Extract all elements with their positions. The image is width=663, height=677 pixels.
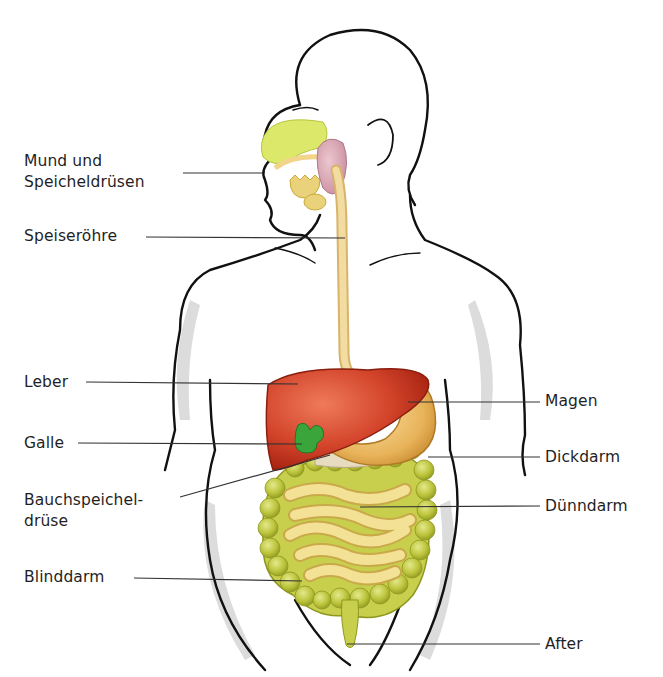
digestive-system-diagram: Mund und Speicheldrüsen Speiseröhre Lebe… bbox=[0, 0, 663, 677]
label-bauchspeicheldruese-line1: Bauchspeichel- bbox=[24, 490, 143, 511]
label-galle: Galle bbox=[24, 433, 64, 454]
label-mund-line1: Mund und bbox=[24, 151, 145, 172]
label-speiseroehre: Speiseröhre bbox=[24, 226, 117, 247]
label-leber: Leber bbox=[24, 372, 68, 393]
label-bauchspeicheldruese-line2: drüse bbox=[24, 511, 143, 532]
label-duenndarm: Dünndarm bbox=[545, 496, 628, 517]
label-after: After bbox=[545, 634, 583, 655]
label-mund: Mund und Speicheldrüsen bbox=[24, 151, 145, 193]
label-mund-line2: Speicheldrüsen bbox=[24, 172, 145, 193]
label-dickdarm: Dickdarm bbox=[545, 447, 620, 468]
label-blinddarm: Blinddarm bbox=[24, 567, 104, 588]
sublingual-gland bbox=[304, 194, 326, 210]
label-magen: Magen bbox=[545, 391, 598, 412]
rectum bbox=[342, 600, 359, 648]
label-bauchspeicheldruese: Bauchspeichel- drüse bbox=[24, 490, 143, 532]
